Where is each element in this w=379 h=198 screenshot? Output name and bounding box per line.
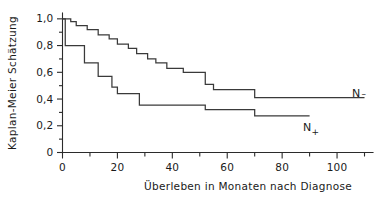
chart-svg: 00,20,40,60,81,0 020406080100 N – N + Ka… [0,0,379,198]
y-axis-title: Kaplan-Meier Schätzung [6,16,18,150]
y-tick-label: 0 [47,146,54,158]
series-label-n-plus-sub: + [312,127,320,137]
y-tick-label: 0,6 [36,66,53,78]
x-tick-label: 40 [165,161,179,173]
series-label-n-plus: N + [303,121,319,137]
y-tick-label: 1,0 [36,12,53,24]
series-curves [63,19,365,116]
series-label-n-minus-text: N [352,87,360,100]
series-label-n-minus: N – [352,87,367,100]
x-axis-ticks [63,153,365,159]
x-tick-label: 20 [111,161,125,173]
survival-curve-n-plus [63,19,310,116]
x-tick-label: 0 [59,161,66,173]
x-tick-label: 60 [220,161,234,173]
series-label-n-minus-sub: – [362,89,367,99]
axes-group [63,13,374,153]
y-tick-label: 0,2 [36,119,53,131]
survival-curve-n-minus [63,19,365,98]
y-tick-label: 0,4 [36,93,53,105]
x-tick-label: 80 [275,161,289,173]
series-label-n-plus-text: N [303,121,311,134]
kaplan-meier-chart: 00,20,40,60,81,0 020406080100 N – N + Ka… [0,0,379,198]
y-axis-ticks [57,19,63,153]
x-tick-label: 100 [327,161,348,173]
x-axis-title: Überleben in Monaten nach Diagnose [144,180,352,192]
y-tick-label: 0,8 [36,39,53,51]
x-axis-tick-labels: 020406080100 [59,161,347,173]
y-axis-tick-labels: 00,20,40,60,81,0 [36,12,53,158]
